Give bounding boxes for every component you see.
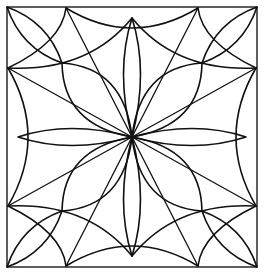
stained-glass-pattern-canvas: Stained Glass Rosette Line Drawing Black… (0, 0, 264, 275)
center-node (130, 135, 133, 138)
